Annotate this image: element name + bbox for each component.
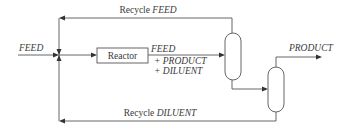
arrow-up-icon bbox=[57, 55, 62, 61]
mixing-junction bbox=[57, 18, 62, 121]
arrow-right-icon bbox=[219, 53, 225, 58]
arrow-left-icon bbox=[59, 119, 65, 124]
recycle-feed-label: Recycle FEED bbox=[119, 5, 176, 15]
reactor-outlet-stream: FEED + PRODUCT + DILUENT bbox=[148, 44, 225, 76]
arrow-right-icon bbox=[316, 55, 322, 60]
separator-column-2 bbox=[268, 67, 284, 112]
recycle-diluent-label: Recycle DILUENT bbox=[124, 108, 197, 118]
reactor-label: Reactor bbox=[108, 51, 138, 61]
arrow-left-icon bbox=[59, 16, 65, 21]
recycle-diluent-stream: Recycle DILUENT bbox=[59, 108, 276, 124]
reactor-feed-stream bbox=[59, 53, 97, 58]
arrow-down-icon bbox=[57, 49, 62, 55]
reactor-outlet-label-diluent: + DILUENT bbox=[154, 66, 203, 76]
arrow-right-icon bbox=[53, 53, 59, 58]
reactor-outlet-label-feed: FEED bbox=[150, 44, 175, 54]
process-flow-diagram: FEED Reactor FEED + PRODUCT + DILUENT bbox=[0, 0, 351, 132]
product-outlet-stream: PRODUCT bbox=[276, 43, 334, 67]
arrow-right-icon bbox=[262, 87, 268, 92]
arrow-right-icon bbox=[91, 53, 97, 58]
product-label: PRODUCT bbox=[288, 43, 334, 53]
separator-transfer-stream bbox=[232, 80, 268, 92]
feed-input-stream: FEED bbox=[18, 43, 59, 58]
reactor-outlet-label-product: + PRODUCT bbox=[154, 56, 207, 66]
recycle-feed-stream: Recycle FEED bbox=[59, 5, 232, 33]
reactor-block: Reactor bbox=[97, 48, 148, 63]
feed-input-label: FEED bbox=[18, 43, 43, 53]
separator-column-1 bbox=[225, 33, 241, 80]
